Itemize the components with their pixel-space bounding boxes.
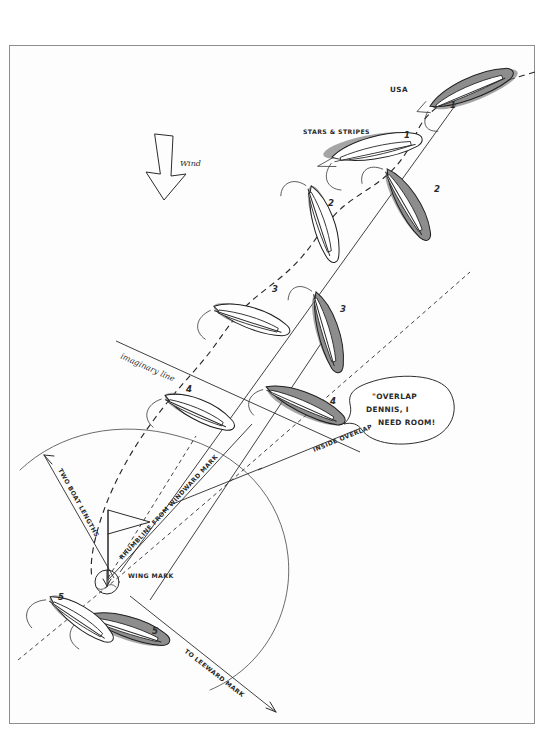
diagram-canvas: 1 1 2 2 <box>0 0 543 754</box>
diagram-border-frame <box>9 45 535 724</box>
